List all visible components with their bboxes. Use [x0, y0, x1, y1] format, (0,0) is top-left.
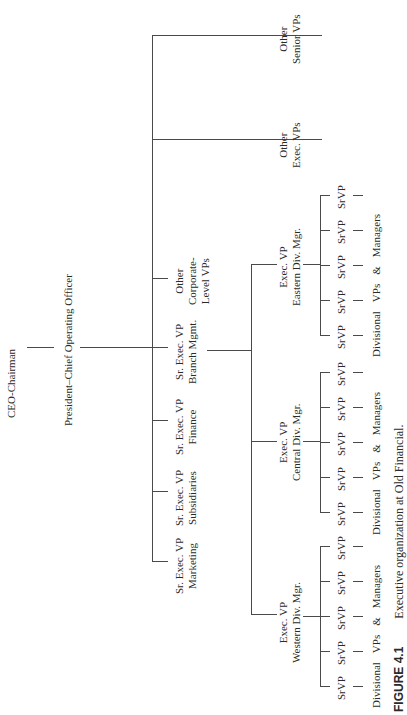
branch-marketing [152, 561, 168, 562]
node-ceo: CEO-Chairman [5, 349, 18, 418]
srvp-tick [353, 512, 363, 513]
srvp-label: SrVP [335, 432, 348, 456]
eastern-srvp-branch [320, 265, 330, 266]
srvp-label: SrVP [335, 467, 348, 491]
node-label-line1: Exec. VP [277, 228, 290, 306]
srvp-label: SrVP [335, 571, 348, 595]
eastern-footer: Divisional VPs & Managers [370, 214, 383, 357]
srvp: SrVP [335, 432, 348, 456]
node-label-line2: Branch Mgmt. [186, 320, 199, 384]
node-president-label: President–Chief Operating Officer [62, 274, 75, 426]
central-srvp-branch [320, 407, 330, 408]
branch-subsidiaries [152, 491, 168, 492]
branch-branch-mgmt [152, 347, 168, 348]
footer-word: VPs [370, 284, 383, 302]
srvp-tick [353, 477, 363, 478]
srvp-tick [353, 686, 363, 687]
eastern-srvp-branch [320, 335, 330, 336]
division-trunk [251, 264, 252, 614]
node-label-line1: Sr. Exec. VP [173, 399, 186, 455]
footer-word: Divisional [370, 311, 383, 357]
srvp-tick [353, 265, 363, 266]
srvp-label: SrVP [335, 255, 348, 279]
srvp: SrVP [335, 397, 348, 421]
srvp-label: SrVP [335, 676, 348, 700]
branch-other-corporate [152, 278, 168, 279]
node-label-line2: Marketing [186, 538, 199, 594]
eastern-srvp-branch [320, 300, 330, 301]
node-label-line1: Exec. VP [277, 404, 290, 482]
connector-western-srvps [303, 616, 320, 617]
western-srvp-branch [320, 651, 330, 652]
footer-word: VPs [370, 635, 383, 653]
western-srvp-branch [320, 616, 330, 617]
srvp: SrVP [335, 536, 348, 560]
footer-word: Divisional [370, 662, 383, 708]
srvp: SrVP [335, 362, 348, 386]
srvp: SrVP [335, 502, 348, 526]
western-srvp-branch [320, 686, 330, 687]
node-president: President–Chief Operating Officer [62, 274, 75, 426]
footer-word: Managers [370, 565, 383, 608]
central-srvp-branch [320, 477, 330, 478]
srvp-tick [353, 407, 363, 408]
srvp-label: SrVP [335, 185, 348, 209]
connector-president-trunk [80, 347, 152, 348]
srvp: SrVP [335, 641, 348, 665]
eastern-srvp-branch [320, 195, 330, 196]
srvp-tick [353, 195, 363, 196]
branch-finance [152, 420, 168, 421]
footer-word: & [370, 617, 383, 626]
srvp: SrVP [335, 255, 348, 279]
footer-word: Divisional [370, 489, 383, 535]
node-label-line2: Subsidiaries [186, 470, 199, 526]
central-srvp-branch [320, 442, 330, 443]
footer-word: Managers [370, 392, 383, 435]
node-label-line1: Sr. Exec. VP [173, 320, 186, 384]
node-label-line2: Eastern Div. Mgr. [290, 228, 303, 306]
branch-western [251, 614, 277, 615]
node-label-line3: Level VPs [199, 257, 212, 305]
footer-row: Divisional VPs & Managers [370, 214, 383, 357]
node-label-line1: Sr. Exec. VP [173, 538, 186, 594]
srvp-label: SrVP [335, 641, 348, 665]
branch-central [251, 441, 277, 442]
node-sevp-finance: Sr. Exec. VP Finance [173, 399, 199, 455]
footer-word: Managers [370, 214, 383, 257]
node-label-line2: Finance [186, 399, 199, 455]
node-label-line1: Exec. VP [277, 582, 290, 663]
node-ceo-label: CEO-Chairman [5, 349, 18, 418]
footer-word: & [370, 444, 383, 453]
srvp-tick [353, 546, 363, 547]
srvp: SrVP [335, 676, 348, 700]
srvp-tick [353, 335, 363, 336]
node-label-line2: Exec. VPs [290, 122, 303, 168]
node-label-line2: Corporate- [186, 257, 199, 305]
node-label-line2: Central Div. Mgr. [290, 404, 303, 482]
srvp: SrVP [335, 220, 348, 244]
footer-row: Divisional VPs & Managers [370, 565, 383, 708]
srvp-label: SrVP [335, 536, 348, 560]
node-central-div: Exec. VP Central Div. Mgr. [277, 404, 303, 482]
node-sevp-branch-mgmt: Sr. Exec. VP Branch Mgmt. [173, 320, 199, 384]
node-sevp-subsidiaries: Sr. Exec. VP Subsidiaries [173, 470, 199, 526]
branch-eastern [251, 264, 277, 265]
western-srvp-branch [320, 546, 330, 547]
footer-row: Divisional VPs & Managers [370, 392, 383, 535]
srvp-tick [353, 581, 363, 582]
figure-caption-text: Executive organization at Old Financial. [392, 425, 406, 619]
node-eastern-div: Exec. VP Eastern Div. Mgr. [277, 228, 303, 306]
node-label-line2: Western Div. Mgr. [290, 582, 303, 663]
node-label-line2: Senior VPs [290, 14, 303, 64]
node-label-line1: Sr. Exec. VP [173, 470, 186, 526]
footer-word: & [370, 266, 383, 275]
connector-central-srvps [303, 441, 320, 442]
srvp-tick [353, 300, 363, 301]
node-label-line1: Other [277, 122, 290, 168]
node-sevp-marketing: Sr. Exec. VP Marketing [173, 538, 199, 594]
srvp-label: SrVP [335, 606, 348, 630]
figure-caption: FIGURE 4.1Executive organization at Old … [392, 425, 407, 712]
srvp-label: SrVP [335, 325, 348, 349]
srvp-label: SrVP [335, 220, 348, 244]
western-footer: Divisional VPs & Managers [370, 565, 383, 708]
